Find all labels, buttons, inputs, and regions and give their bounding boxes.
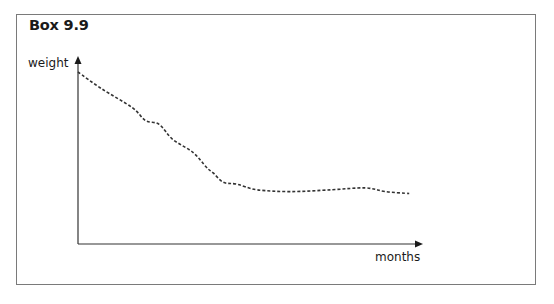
weight-curve	[78, 72, 409, 194]
x-axis-arrow-icon	[415, 241, 423, 248]
y-axis-arrow-icon	[75, 56, 82, 64]
weight-chart	[0, 0, 554, 304]
